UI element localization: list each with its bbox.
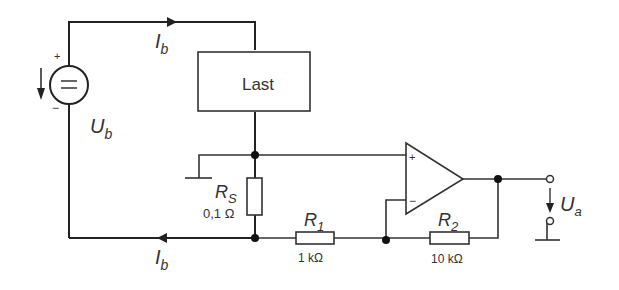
current-arrow-bottom <box>157 233 167 243</box>
resistor-r1: R1 1 kΩ <box>296 210 334 265</box>
current-label-bottom: Ib <box>155 246 169 273</box>
r2-label: R2 <box>438 210 459 234</box>
output-voltage-label: Ua <box>560 193 582 219</box>
opamp-plus-sign: + <box>409 151 415 163</box>
resistor-r2: R2 10 kΩ <box>430 210 469 266</box>
source-minus-sign: − <box>52 101 59 115</box>
r1-value: 1 kΩ <box>298 251 323 265</box>
opamp: + − <box>406 143 463 214</box>
circuit-diagram: + − Ub Ib Ib Last RS 0,1 Ω R1 1 kΩ R2 10… <box>0 0 619 290</box>
rs-value: 0,1 Ω <box>203 206 235 221</box>
current-label-top: Ib <box>155 30 169 57</box>
output-voltage-arrow-icon <box>546 203 554 213</box>
opamp-minus-sign: − <box>409 194 416 208</box>
wires <box>69 22 560 240</box>
junction-dots <box>251 151 502 244</box>
voltage-source: + − <box>37 50 88 115</box>
source-plus-sign: + <box>54 50 60 62</box>
rs-label: RS <box>215 182 237 206</box>
r1-label: R1 <box>304 210 324 234</box>
load-label: Last <box>242 75 274 94</box>
voltage-arrow-icon <box>37 88 45 100</box>
current-arrow-top <box>167 17 177 27</box>
source-voltage-label: Ub <box>90 115 112 142</box>
load-block: Last <box>198 52 310 111</box>
resistor-rs: RS 0,1 Ω <box>203 178 262 221</box>
r2-value: 10 kΩ <box>431 252 463 266</box>
output-terminals: Ua <box>546 176 582 225</box>
